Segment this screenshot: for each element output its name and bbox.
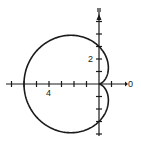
polar-axis-label: 0 [128,79,133,89]
x-tick-label-4: 4 [46,88,51,98]
y-axis-arrow-icon [97,14,102,20]
y-tick-label-2: 2 [88,54,93,64]
cardioid-diagram: 0 4 2 [0,0,141,143]
